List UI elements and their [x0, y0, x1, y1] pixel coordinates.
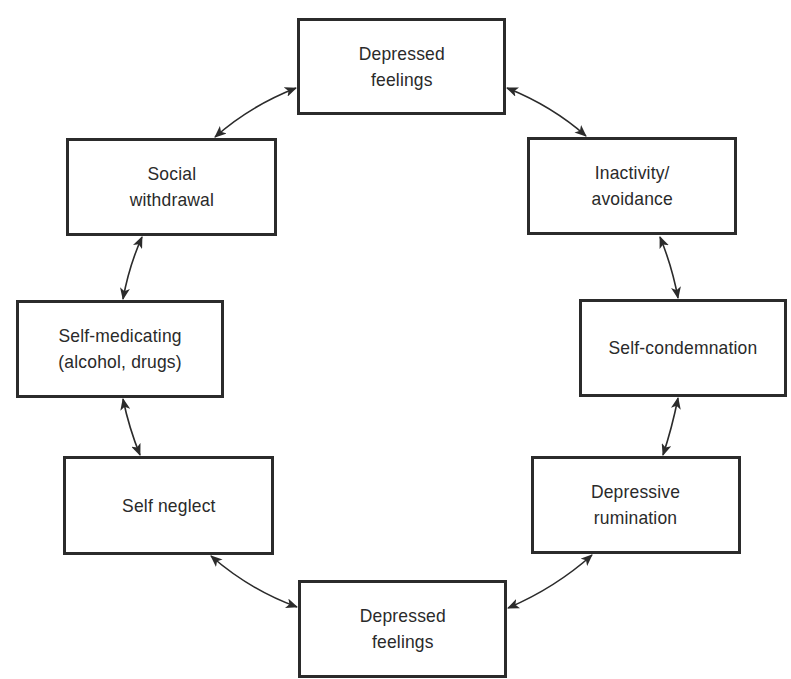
node-label: Self neglect: [122, 493, 216, 519]
arrow-depressed-bottom-to-self-neglect: [211, 556, 297, 607]
node-label: Depressive rumination: [591, 479, 680, 531]
node-depressive-rumination: Depressive rumination: [531, 456, 741, 554]
arrow-self-condemnation-to-rumination: [663, 398, 678, 455]
node-label: Inactivity/ avoidance: [591, 160, 672, 212]
node-self-neglect: Self neglect: [63, 456, 274, 555]
node-social-withdrawal: Social withdrawal: [66, 138, 277, 236]
node-label: Social withdrawal: [129, 161, 213, 213]
depression-cycle-diagram: Depressed feelings Inactivity/ avoidance…: [0, 0, 791, 679]
node-depressed-feelings-top: Depressed feelings: [297, 18, 506, 115]
node-self-condemnation: Self-condemnation: [579, 299, 787, 397]
node-self-medicating: Self-medicating (alcohol, drugs): [16, 300, 224, 398]
node-depressed-feelings-bottom: Depressed feelings: [298, 580, 507, 678]
arrow-self-neglect-to-self-medicating: [123, 399, 140, 455]
node-label: Self-condemnation: [609, 335, 758, 361]
arrow-self-medicating-to-social-withdrawal: [123, 237, 142, 299]
node-label: Self-medicating (alcohol, drugs): [58, 323, 181, 375]
arrow-social-withdrawal-to-depressed-top: [215, 88, 296, 137]
node-label: Depressed feelings: [359, 603, 445, 655]
node-inactivity-avoidance: Inactivity/ avoidance: [527, 137, 737, 235]
arrow-rumination-to-depressed-bottom: [508, 555, 592, 608]
node-label: Depressed feelings: [358, 41, 444, 93]
arrow-inactivity-to-self-condemnation: [660, 237, 678, 298]
arrow-depressed-top-to-inactivity: [507, 88, 586, 136]
